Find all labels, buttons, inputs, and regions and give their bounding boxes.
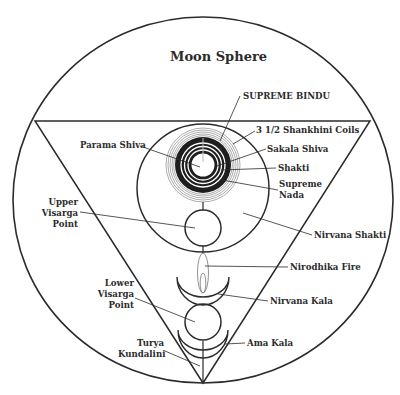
label-supreme-bindu: SUPREME BINDU <box>243 91 330 102</box>
lower-visarga-circle <box>185 304 221 340</box>
label-lower-visarga-point: Lower Visarga Point <box>92 278 134 311</box>
label-supreme-nada: Supreme Nada <box>279 179 322 201</box>
label-nirvana-kala: Nirvana Kala <box>270 296 333 307</box>
label-turya-kundalini: Turya Kundalini <box>118 338 164 360</box>
moon-sphere-title: Moon Sphere <box>170 49 267 64</box>
label-turya-line2: Kundalini <box>118 349 164 360</box>
label-sakala-shiva: Sakala Shiva <box>267 144 328 155</box>
label-nirvana-shakti: Nirvana Shakti <box>314 230 386 241</box>
label-parama-shiva: Parama Shiva <box>80 140 146 151</box>
label-lower-visarga-line3: Point <box>92 300 134 311</box>
label-turya-line1: Turya <box>118 338 164 349</box>
label-lower-visarga-line2: Visarga <box>92 289 134 300</box>
supreme-bindu-core <box>175 137 231 193</box>
label-supreme-nada-line2: Nada <box>279 190 322 201</box>
label-upper-visarga-point: Upper Visarga Point <box>38 197 78 230</box>
label-lower-visarga-line1: Lower <box>92 278 134 289</box>
label-shankhini-coils: 3 1/2 Shankhini Coils <box>256 125 359 136</box>
upper-visarga-circle <box>185 210 221 246</box>
label-supreme-nada-line1: Supreme <box>279 179 322 190</box>
label-upper-visarga-line3: Point <box>38 219 78 230</box>
nirodhika-fire-flame <box>198 253 209 293</box>
label-upper-visarga-line2: Visarga <box>38 208 78 219</box>
label-upper-visarga-line1: Upper <box>38 197 78 208</box>
label-ama-kala: Ama Kala <box>247 338 293 349</box>
label-shakti: Shakti <box>278 163 309 174</box>
label-nirodhika-fire: Nirodhika Fire <box>290 262 361 273</box>
moon-sphere-diagram: Moon Sphere SUPREME BINDU 3 1/2 Shankhin… <box>0 0 400 395</box>
nirvana-kala-crescent <box>177 277 229 305</box>
